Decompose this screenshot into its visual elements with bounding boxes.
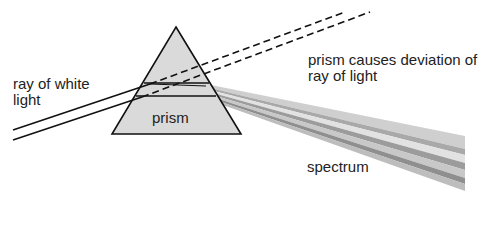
spectrum-label: spectrum — [307, 159, 369, 175]
deviation-label: prism causes deviation of ray of light — [308, 52, 484, 84]
prism-label: prism — [152, 110, 189, 126]
ray-label: ray of white light — [13, 76, 113, 108]
